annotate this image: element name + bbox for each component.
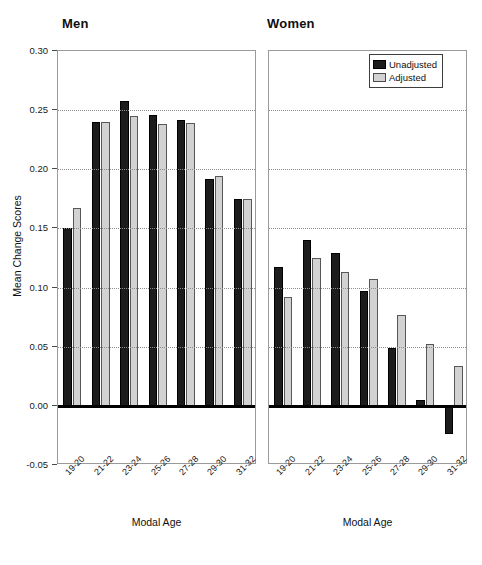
legend-swatch-unadjusted-icon <box>373 60 386 69</box>
gridline <box>58 169 255 170</box>
bar-adj-27-28 <box>186 123 195 406</box>
bars-women <box>269 51 466 463</box>
gridline <box>58 288 255 289</box>
y-tick-mark <box>52 464 57 465</box>
zero-line <box>58 405 255 408</box>
bar-adj-21-22 <box>312 258 321 406</box>
y-tick-label: 0.05 <box>30 340 49 351</box>
bar-adj-29-30 <box>426 344 435 406</box>
legend-label-unadjusted: Unadjusted <box>389 59 437 70</box>
gridline <box>58 110 255 111</box>
legend-label-adjusted: Adjusted <box>389 72 426 83</box>
bar-unadj-29-30 <box>205 179 214 406</box>
bar-unadj-21-22 <box>92 122 101 406</box>
x-axis-title-men: Modal Age <box>57 516 256 528</box>
bar-unadj-27-28 <box>388 348 397 406</box>
panel-title-women: Women <box>267 16 315 31</box>
bar-adj-21-22 <box>101 122 110 406</box>
bar-unadj-23-24 <box>120 101 129 406</box>
x-axis-title-women: Modal Age <box>268 516 467 528</box>
gridline <box>269 228 466 229</box>
bar-adj-29-30 <box>215 176 224 405</box>
bar-unadj-27-28 <box>177 120 186 406</box>
y-tick-label: 0.20 <box>30 163 49 174</box>
zero-line <box>269 405 466 408</box>
gridline <box>269 347 466 348</box>
bar-adj-23-24 <box>130 116 139 406</box>
y-tick-label: 0.25 <box>30 104 49 115</box>
bar-unadj-23-24 <box>331 253 340 406</box>
bars-men <box>58 51 255 463</box>
bar-adj-25-26 <box>369 279 378 406</box>
bar-adj-25-26 <box>158 124 167 406</box>
bar-adj-19-20 <box>73 208 82 406</box>
y-tick-label: 0.15 <box>30 222 49 233</box>
bar-unadj-25-26 <box>360 291 369 406</box>
gridline <box>269 288 466 289</box>
gridline <box>269 110 466 111</box>
bar-unadj-21-22 <box>303 240 312 406</box>
plot-area-women <box>268 50 467 464</box>
bar-unadj-31-32 <box>234 199 243 406</box>
panel-title-men: Men <box>62 16 89 31</box>
bar-unadj-31-32 <box>445 406 454 434</box>
gridline <box>58 228 255 229</box>
bar-adj-19-20 <box>284 297 293 406</box>
chart-legend: Unadjusted Adjusted <box>369 54 443 88</box>
y-tick-label: 0.30 <box>30 45 49 56</box>
bar-adj-23-24 <box>341 272 350 406</box>
legend-swatch-adjusted-icon <box>373 73 386 82</box>
y-tick-label: 0.10 <box>30 281 49 292</box>
bar-adj-31-32 <box>454 366 463 406</box>
y-axis: Mean Change Scores 0.300.250.200.150.100… <box>0 0 57 565</box>
bar-unadj-25-26 <box>149 115 158 406</box>
plot-area-men <box>57 50 256 464</box>
bar-adj-31-32 <box>243 199 252 406</box>
legend-item-unadjusted: Unadjusted <box>373 58 437 71</box>
legend-item-adjusted: Adjusted <box>373 71 437 84</box>
gridline <box>269 169 466 170</box>
bar-adj-27-28 <box>397 315 406 406</box>
gridline <box>58 347 255 348</box>
y-axis-title: Mean Change Scores <box>11 156 23 336</box>
bar-unadj-19-20 <box>63 228 72 405</box>
chart-figure: Mean Change Scores 0.300.250.200.150.100… <box>0 0 482 565</box>
y-tick-label: -0.05 <box>26 459 48 470</box>
y-tick-label: 0.00 <box>30 399 49 410</box>
